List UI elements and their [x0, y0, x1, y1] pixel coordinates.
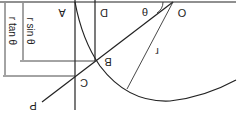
label-d: D [100, 7, 108, 19]
label-b: B [104, 56, 111, 68]
label-p: P [29, 100, 36, 112]
label-r: r [155, 46, 159, 57]
label-c: C [80, 77, 88, 89]
label-theta: θ [142, 6, 148, 18]
label-a: A [58, 7, 66, 19]
label-r-tan-theta: r tan θ [7, 17, 18, 46]
radius-line [127, 2, 173, 89]
trig-diagram: O A D B C P θ r r sin θ r tan θ [0, 0, 244, 128]
label-r-sin-theta: r sin θ [25, 17, 36, 45]
label-o: O [177, 7, 186, 19]
